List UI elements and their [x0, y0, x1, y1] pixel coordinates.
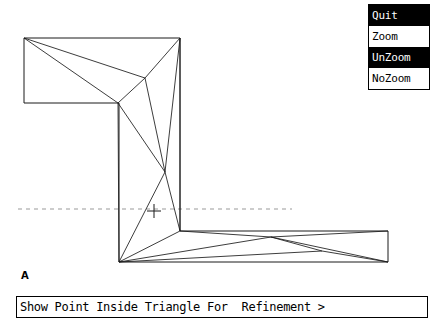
mesh-edge	[165, 172, 180, 231]
status-bar[interactable]: Show Point Inside Triangle For Refinemen…	[16, 296, 428, 318]
crosshair-cursor	[147, 204, 161, 218]
menu-item-unzoom[interactable]: UnZoom	[369, 47, 429, 68]
menu-item-quit-label: Quit	[372, 9, 398, 22]
zoom-menu-panel[interactable]: Quit Zoom UnZoom NoZoom	[368, 4, 430, 90]
mesh-edge	[119, 251, 322, 262]
mesh-edge	[180, 231, 271, 237]
figure-panel-label: A	[21, 270, 29, 282]
mesh-edge	[271, 231, 388, 237]
menu-item-nozoom[interactable]: NoZoom	[369, 68, 429, 89]
menu-item-zoom[interactable]: Zoom	[369, 26, 429, 47]
menu-item-zoom-label: Zoom	[372, 30, 398, 43]
menu-item-unzoom-label: UnZoom	[372, 51, 411, 64]
mesh-edge	[271, 237, 322, 251]
status-bar-text: Show Point Inside Triangle For Refinemen…	[17, 297, 427, 317]
polygon-boundary-group	[24, 38, 388, 262]
mesh-edge	[118, 78, 145, 103]
mesh-edge	[24, 38, 145, 78]
l-shape-boundary	[24, 38, 388, 262]
menu-item-quit[interactable]: Quit	[369, 5, 429, 26]
mesh-edge	[271, 237, 388, 262]
mesh-edge	[145, 38, 180, 78]
menu-item-nozoom-label: NoZoom	[372, 72, 411, 85]
mesh-edge	[119, 172, 165, 262]
mesh-edge-group	[24, 38, 388, 262]
mesh-edge	[24, 38, 118, 103]
mesh-edge	[322, 251, 388, 262]
mesh-edge	[165, 38, 180, 172]
